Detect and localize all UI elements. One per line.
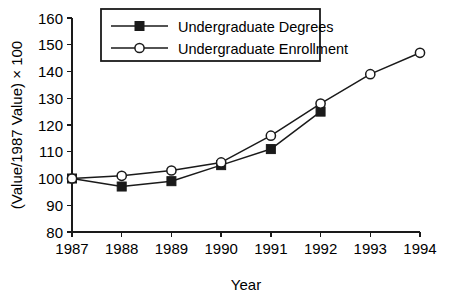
legend-marker-open-circle [135,43,144,52]
series-line-filled-square [72,112,321,187]
y-tick-label: 90 [46,197,63,214]
y-tick-label: 160 [38,10,63,27]
x-tick-label: 1989 [155,240,188,257]
x-tick-label: 1994 [403,240,436,257]
y-axis: 8090100110120130140150160 [38,10,72,241]
data-point [316,99,325,108]
x-axis: 19871988198919901991199219931994 [55,232,436,257]
data-point [415,48,424,57]
legend-label: Undergraduate Degrees [178,19,334,35]
data-point [167,177,176,186]
y-axis-tick-labels: 8090100110120130140150160 [38,10,63,241]
legend-label: Undergraduate Enrollment [178,41,348,57]
y-tick-label: 130 [38,90,63,107]
line-chart: 8090100110120130140150160 19871988198919… [0,0,450,308]
x-tick-label: 1992 [304,240,337,257]
x-axis-title: Year [231,276,261,293]
y-axis-title: (Value/1987 Value) × 100 [8,41,25,209]
data-point [266,145,275,154]
x-tick-label: 1991 [254,240,287,257]
data-point [67,174,76,183]
data-point [167,166,176,175]
y-tick-label: 120 [38,117,63,134]
legend-marker-filled-square [135,22,144,31]
y-tick-label: 80 [46,224,63,241]
x-tick-label: 1990 [204,240,237,257]
legend: Undergraduate DegreesUndergraduate Enrol… [101,9,348,61]
data-point [117,182,126,191]
data-point [217,158,226,167]
x-axis-tick-labels: 19871988198919901991199219931994 [55,240,436,257]
x-tick-label: 1987 [55,240,88,257]
y-tick-label: 140 [38,63,63,80]
data-point [366,70,375,79]
x-tick-label: 1993 [354,240,387,257]
x-tick-label: 1988 [105,240,138,257]
y-tick-label: 110 [39,143,63,160]
data-point [117,171,126,180]
data-point [266,131,275,140]
chart-container: 8090100110120130140150160 19871988198919… [0,0,450,308]
y-tick-label: 100 [38,170,63,187]
plot-series-group [67,48,424,191]
y-tick-label: 150 [38,36,63,53]
